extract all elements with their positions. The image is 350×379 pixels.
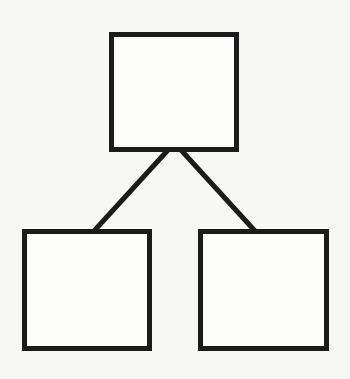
node-root — [112, 35, 237, 150]
node-box — [201, 232, 327, 349]
edge-root-to-child-right — [181, 150, 255, 231]
nodes-layer — [25, 35, 327, 349]
edge-root-to-child-left — [94, 150, 168, 231]
tree-diagram — [0, 0, 350, 379]
node-box — [112, 35, 237, 150]
edges-layer — [94, 150, 255, 231]
diagram-svg — [0, 0, 350, 379]
node-box — [25, 232, 150, 349]
node-child-right — [201, 232, 327, 349]
node-child-left — [25, 232, 150, 349]
